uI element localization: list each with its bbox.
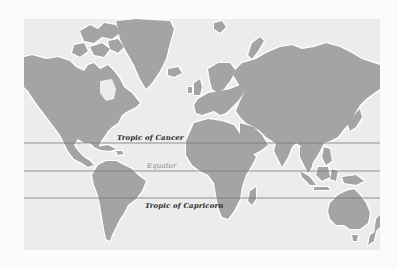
tropic-of-cancer-label: Tropic of Cancer (117, 133, 184, 142)
new-guinea (342, 175, 364, 185)
sumatra (300, 171, 316, 185)
south-america (92, 161, 146, 241)
philippines (322, 147, 332, 165)
map-svg (24, 19, 380, 250)
new-zealand (374, 215, 380, 233)
greenland (116, 19, 174, 89)
uk (194, 79, 202, 95)
india (274, 141, 292, 167)
iceland (168, 67, 182, 77)
tasmania (352, 235, 358, 241)
world-map: Tropic of Cancer Equator Tropic of Capri… (24, 19, 380, 250)
north-america (24, 55, 140, 167)
madagascar (248, 187, 256, 205)
australia (328, 189, 370, 229)
tropic-of-capricorn-label: Tropic of Capricorn (145, 201, 223, 210)
svalbard (214, 21, 226, 33)
borneo (316, 167, 330, 181)
java (314, 187, 330, 190)
equator-label: Equator (147, 162, 176, 170)
